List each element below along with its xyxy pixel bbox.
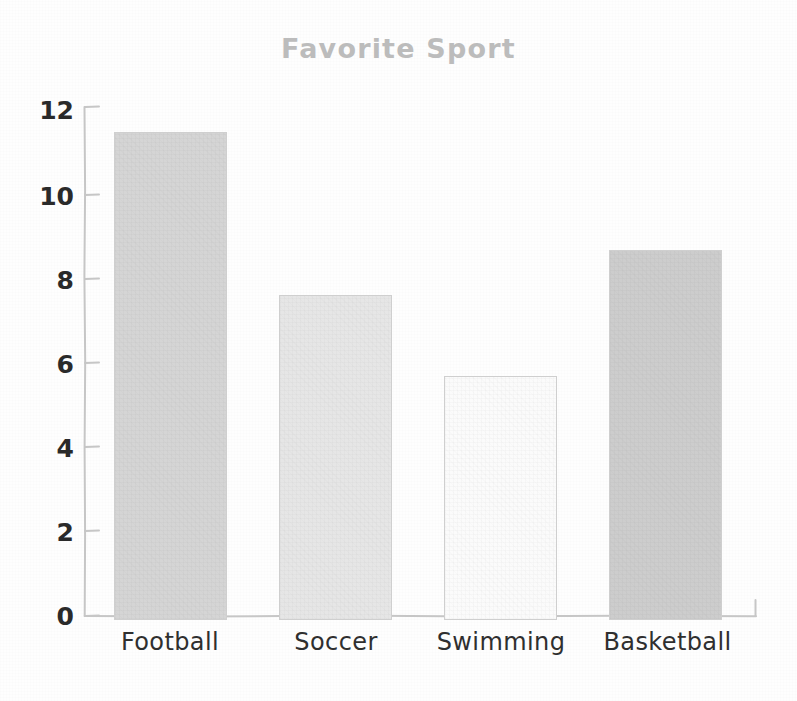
plot-area: [84, 108, 756, 620]
bar-texture: [445, 377, 556, 619]
x-tick-label-basketball: Basketball: [580, 628, 755, 656]
y-tick-label: 8: [34, 266, 74, 295]
bar-swimming[interactable]: [444, 376, 557, 620]
bar-football[interactable]: [114, 132, 227, 620]
x-tick-label-soccer: Soccer: [256, 628, 416, 656]
y-tick-label: 12: [34, 96, 74, 125]
x-tick-label-football: Football: [90, 628, 250, 656]
bar-soccer[interactable]: [279, 295, 392, 620]
chart-title: Favorite Sport: [0, 33, 797, 64]
y-tick-label: 2: [34, 518, 74, 547]
bar-texture: [115, 133, 226, 619]
y-axis-tick-labels: 0 2 4 6 8 10 12: [24, 108, 74, 620]
y-tick-label: 10: [34, 182, 74, 211]
x-axis-tick-labels: Football Soccer Swimming Basketball: [0, 628, 797, 668]
bar-basketball[interactable]: [609, 250, 722, 620]
y-tick-label: 4: [34, 434, 74, 463]
bar-chart-figure: Favorite Sport 0 2 4 6 8 10 12: [0, 0, 797, 701]
y-tick-label: 6: [34, 350, 74, 379]
bar-texture: [280, 296, 391, 619]
y-tick-label: 0: [34, 602, 74, 631]
bar-texture: [610, 251, 721, 619]
x-tick-label-swimming: Swimming: [421, 628, 581, 656]
